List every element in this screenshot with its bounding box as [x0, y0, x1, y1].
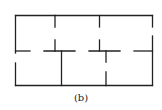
figure-caption: (b)	[0, 92, 162, 103]
